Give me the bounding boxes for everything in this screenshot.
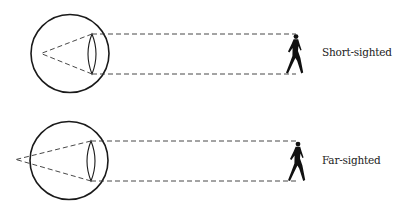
far-sighted-panel xyxy=(16,122,305,200)
short-sighted-panel xyxy=(31,15,303,93)
lens-short-sighted xyxy=(88,34,96,74)
label-short-sighted: Short-sighted xyxy=(322,46,392,58)
vision-diagram xyxy=(0,0,401,216)
eyeball-far-sighted xyxy=(30,122,108,200)
label-far-sighted: Far-sighted xyxy=(322,154,381,166)
lens-far-sighted xyxy=(87,141,95,181)
ray-to-focus-top-far-sighted xyxy=(16,141,91,160)
ray-to-focus-bottom-short-sighted xyxy=(41,54,92,75)
eyeball-short-sighted xyxy=(31,15,109,93)
walking-person-icon xyxy=(288,142,305,181)
ray-to-focus-bottom-far-sighted xyxy=(16,160,91,182)
walking-person-icon xyxy=(286,34,303,73)
ray-to-focus-top-short-sighted xyxy=(41,34,92,54)
